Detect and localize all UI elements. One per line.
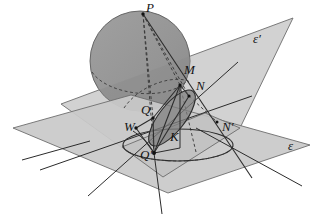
label-K: K [169, 129, 180, 144]
label-epsilon-prime: ε′ [253, 31, 261, 46]
label-P: P [145, 0, 154, 15]
point-Nprime [216, 121, 219, 124]
point-Q [151, 116, 154, 119]
label-N: N [195, 78, 206, 93]
label-Q: Q [141, 102, 151, 117]
point-P [141, 12, 144, 15]
geometry-figure: P M N Q W K Q′ N′ ε′ ε [0, 0, 326, 219]
label-N-prime: N′ [221, 119, 234, 134]
label-epsilon: ε [288, 138, 294, 153]
point-M [178, 83, 181, 86]
label-Q-prime: Q′ [140, 147, 152, 162]
point-Qprime [152, 151, 156, 155]
label-M: M [183, 62, 196, 77]
figure-canvas: P M N Q W K Q′ N′ ε′ ε [0, 0, 326, 219]
label-W: W [124, 119, 136, 134]
point-N [187, 94, 190, 97]
